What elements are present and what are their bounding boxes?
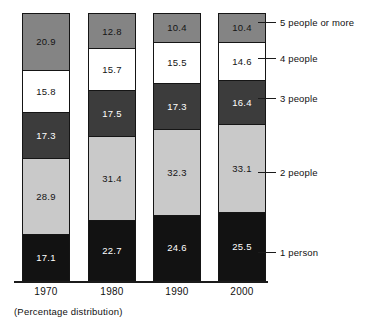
legend-label: 3 people	[280, 93, 318, 104]
segment-value-label: 20.9	[36, 36, 55, 47]
segment-value-label: 15.5	[167, 57, 186, 68]
segment-value-label: 14.6	[232, 56, 251, 67]
bar-segment-1970-2-people: 28.9	[23, 158, 69, 235]
segment-value-label: 25.5	[232, 241, 251, 252]
bar-segment-1970-3-people: 17.3	[23, 112, 69, 158]
bar-1980: 12.8 15.7 17.5 31.4 22.7	[88, 13, 136, 281]
bar-segment-1990-2-people: 32.3	[154, 129, 200, 215]
legend-leader-line-icon	[258, 98, 276, 99]
legend-leader-line-icon	[258, 22, 276, 23]
x-axis-line	[14, 281, 268, 283]
segment-value-label: 17.5	[102, 108, 121, 119]
segment-value-label: 31.4	[102, 173, 121, 184]
legend-item-2-people: 2 people	[258, 166, 318, 178]
bar-segment-1970-4-people: 15.8	[23, 70, 69, 112]
legend-label: 2 people	[280, 167, 318, 178]
bar-segment-1970-5-people-or-more: 20.9	[23, 14, 69, 70]
bar-1990: 10.4 15.5 17.3 32.3 24.6	[153, 13, 201, 281]
x-axis-tick-label-1990: 1990	[153, 286, 201, 297]
x-axis-tick-label-1980: 1980	[88, 286, 136, 297]
legend-item-1-person: 1 person	[258, 246, 318, 258]
bar-segment-1990-5-people-or-more: 10.4	[154, 14, 200, 42]
legend-label: 5 people or more	[280, 17, 354, 28]
segment-value-label: 17.3	[167, 101, 186, 112]
segment-value-label: 15.8	[36, 86, 55, 97]
segment-value-label: 10.4	[167, 22, 186, 33]
x-axis-tick-label-1970: 1970	[22, 286, 70, 297]
segment-value-label: 32.3	[167, 167, 186, 178]
bar-segment-1980-2-people: 31.4	[89, 136, 135, 219]
segment-value-label: 22.7	[102, 245, 121, 256]
plot-area: 20.9 15.8 17.3 28.9 17.1 12.8 15.7 17.5 …	[22, 13, 258, 281]
segment-value-label: 24.6	[167, 242, 186, 253]
stacked-bar-chart: 20.9 15.8 17.3 28.9 17.1 12.8 15.7 17.5 …	[0, 0, 374, 331]
bar-segment-1980-5-people-or-more: 12.8	[89, 14, 135, 48]
bar-segment-1980-1-person: 22.7	[89, 220, 135, 280]
bar-segment-1990-4-people: 15.5	[154, 42, 200, 83]
legend-item-5-people-or-more: 5 people or more	[258, 16, 354, 28]
bar-segment-1990-1-person: 24.6	[154, 215, 200, 280]
legend-label: 4 people	[280, 53, 318, 64]
legend-label: 1 person	[280, 247, 318, 258]
bar-1970: 20.9 15.8 17.3 28.9 17.1	[22, 13, 70, 281]
segment-value-label: 15.7	[102, 64, 121, 75]
segment-value-label: 17.3	[36, 130, 55, 141]
legend-item-4-people: 4 people	[258, 52, 318, 64]
legend-leader-line-icon	[258, 172, 276, 173]
segment-value-label: 17.1	[36, 252, 55, 263]
legend-leader-line-icon	[258, 58, 276, 59]
chart-caption: (Percentage distribution)	[14, 306, 123, 317]
bar-segment-1990-3-people: 17.3	[154, 83, 200, 129]
segment-value-label: 10.4	[232, 22, 251, 33]
legend-leader-line-icon	[258, 252, 276, 253]
segment-value-label: 12.8	[102, 26, 121, 37]
bar-segment-1980-3-people: 17.5	[89, 90, 135, 137]
bar-segment-1980-4-people: 15.7	[89, 48, 135, 90]
segment-value-label: 16.4	[232, 97, 251, 108]
bar-segment-1970-1-person: 17.1	[23, 234, 69, 279]
segment-value-label: 33.1	[232, 163, 251, 174]
legend-item-3-people: 3 people	[258, 92, 318, 104]
segment-value-label: 28.9	[36, 191, 55, 202]
x-axis-tick-label-2000: 2000	[218, 286, 266, 297]
